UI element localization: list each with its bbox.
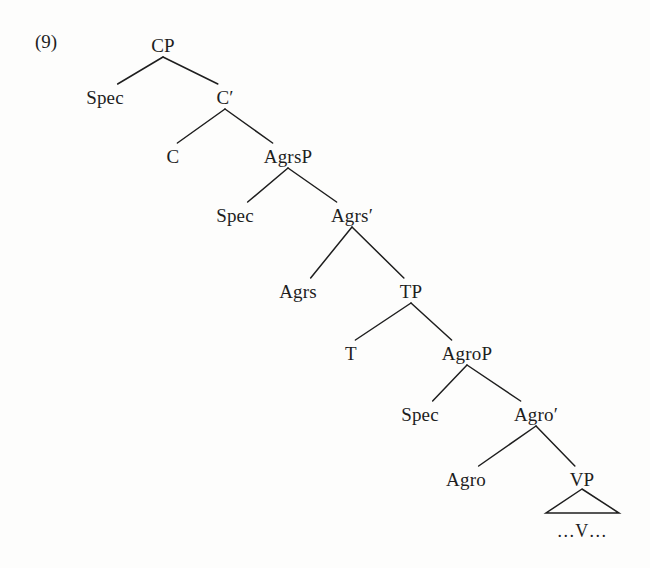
tree-node-spec1: Spec [86,88,124,107]
tree-node-agro: Agro [446,470,486,489]
tree-node-t: T [345,344,357,363]
branch-line-agrobar-agro [479,426,536,466]
branch-line-agrsbar-agrs [311,227,352,278]
tree-node-cbar: C′ [216,88,233,107]
branch-line-agrsp-spec2 [248,168,288,202]
tree-node-c: C [167,147,180,166]
vp-ellipsis-triangle [546,489,619,513]
tree-node-agrsp: AgrsP [264,147,313,166]
tree-node-agrobar: Agro′ [514,405,558,424]
tree-node-spec2: Spec [216,206,254,225]
tree-node-tp: TP [400,282,423,301]
branch-line-cbar-agrsp [225,109,273,143]
branch-line-cp-cbar [163,57,218,84]
branch-line-cp-spec1 [118,57,163,84]
branch-line-cbar-c [177,109,225,143]
branch-line-tp-agrop [411,303,452,340]
branch-line-agrop-agrobar [467,365,521,401]
tree-node-spec3: Spec [401,405,439,424]
branch-line-agrop-spec3 [433,365,467,401]
branch-line-tp-t [355,303,411,340]
tree-branch-lines [0,0,650,568]
tree-node-agrs: Agrs [279,282,317,301]
tree-node-cp: CP [151,36,175,55]
tree-node-agrop: AgroP [442,344,493,363]
tree-node-vp: VP [570,470,595,489]
syntax-tree-figure: (9) CPSpecC′CAgrsPSpecAgrs′AgrsTPTAgroPS… [0,0,650,568]
branch-line-agrobar-vp [536,426,575,466]
terminal-node-v: …V… [557,522,608,540]
branch-line-agrsbar-tp [352,227,404,278]
tree-node-agrsbar: Agrs′ [331,206,373,225]
branch-line-agrsp-agrsbar [288,168,337,202]
